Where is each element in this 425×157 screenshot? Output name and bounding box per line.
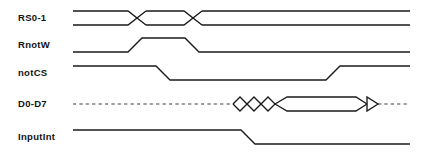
waveform-area — [0, 0, 425, 157]
d0-d7-closing-diamond — [367, 97, 378, 111]
rnotw-trace — [73, 38, 410, 52]
waveform-rs0-1 — [73, 11, 410, 25]
d0-d7-lower-trace — [233, 104, 367, 111]
notcs-trace — [73, 66, 410, 80]
rs0-1-upper-trace — [73, 11, 410, 25]
waveform-d0-d7 — [73, 97, 410, 111]
inputint-trace — [73, 130, 410, 144]
waveform-inputint — [73, 130, 410, 144]
waveform-rnotw — [73, 38, 410, 52]
d0-d7-upper-trace — [233, 97, 367, 104]
timing-diagram-root: RS0-1 RnotW notCS D0-D7 InputInt — [0, 0, 425, 157]
waveform-notcs — [73, 66, 410, 80]
waveform-svg — [0, 0, 425, 157]
rs0-1-lower-trace — [73, 11, 410, 25]
